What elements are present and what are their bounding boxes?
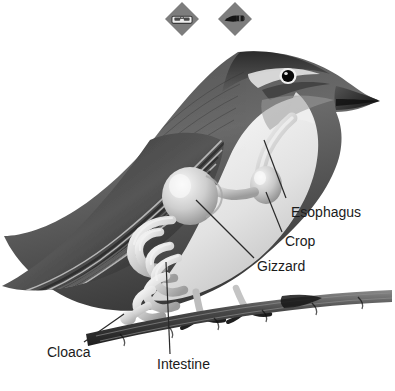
label-intestine: Intestine	[157, 357, 210, 371]
bird-eye	[280, 68, 297, 84]
label-crop: Crop	[285, 234, 315, 248]
bird-anatomy-figure: Esophagus Crop Gizzard Cloaca Intestine	[0, 0, 395, 391]
label-esophagus: Esophagus	[291, 205, 361, 219]
label-cloaca: Cloaca	[47, 345, 91, 359]
bird-illustration	[0, 0, 395, 391]
label-gizzard: Gizzard	[257, 259, 305, 273]
crop-organ	[250, 166, 282, 204]
